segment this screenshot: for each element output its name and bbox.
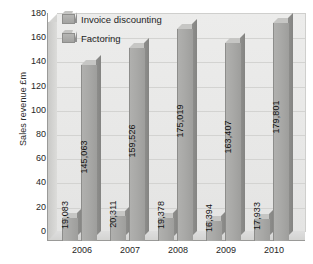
bar-factoring-2010[interactable]: 179,801	[273, 23, 288, 241]
bar-series-container: 19,083 145,063 20,311 159,526	[0, 0, 313, 264]
bar-factoring-2009[interactable]: 163,407	[225, 43, 240, 241]
bar-invoice-discounting-2008[interactable]: 19,378	[158, 218, 173, 242]
x-tick-2007: 2007	[120, 245, 140, 255]
x-tick-2006: 2006	[72, 245, 92, 255]
x-tick-2010: 2010	[264, 245, 284, 255]
bar-value-label: 175,019	[175, 104, 185, 137]
bar-value-label: 145,063	[79, 140, 89, 173]
bar-invoice-discounting-2009[interactable]: 16,394	[206, 221, 221, 241]
bar-invoice-discounting-2007[interactable]: 20,311	[110, 216, 125, 241]
bar-value-label: 159,526	[127, 124, 137, 157]
x-tick-2008: 2008	[168, 245, 188, 255]
bar-invoice-discounting-2006[interactable]: 19,083	[62, 218, 77, 241]
bar-factoring-2008[interactable]: 175,019	[177, 29, 192, 241]
bar-factoring-2007[interactable]: 159,526	[129, 48, 144, 241]
x-axis-tick-labels: 2006 2007 2008 2009 2010	[0, 245, 313, 261]
bar-chart: Sales revenue £m 180 160 140 120 100 80 …	[0, 0, 313, 264]
bar-value-label: 17,933	[252, 202, 262, 230]
bar-value-label: 20,311	[108, 200, 118, 227]
bar-value-label: 19,378	[156, 201, 166, 229]
bar-invoice-discounting-2010[interactable]: 17,933	[254, 219, 269, 241]
bar-value-label: 179,801	[271, 100, 281, 133]
bar-value-label: 163,407	[223, 120, 233, 153]
bar-value-label: 16,394	[204, 204, 214, 232]
bar-value-label: 19,083	[60, 201, 70, 229]
bar-factoring-2006[interactable]: 145,063	[81, 65, 96, 241]
x-tick-2009: 2009	[216, 245, 236, 255]
